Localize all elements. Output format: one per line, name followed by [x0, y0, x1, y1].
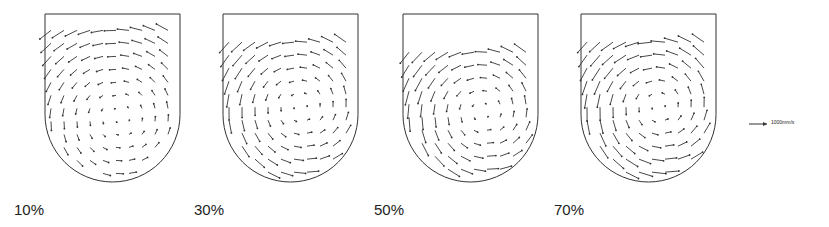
- panel-label-30: 30%: [194, 201, 224, 218]
- panel-label-70: 70%: [554, 201, 584, 218]
- vector-field-figure: [0, 0, 829, 227]
- vessel-outline-2: [403, 14, 538, 182]
- panel-label-10: 10%: [14, 201, 44, 218]
- vessel-outline-0: [45, 14, 180, 182]
- scale-label: 1000mm/s: [771, 119, 794, 125]
- panel-label-50: 50%: [374, 201, 404, 218]
